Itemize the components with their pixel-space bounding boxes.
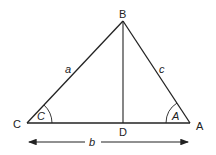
- vertex-label-d: D: [119, 126, 127, 138]
- triangle-diagram: B C A D a c b C A: [0, 0, 216, 155]
- side-label-c: c: [159, 63, 165, 75]
- side-label-b: b: [89, 136, 95, 148]
- angle-arc-c: [44, 105, 52, 123]
- vertex-label-b: B: [119, 8, 126, 20]
- side-c: [123, 21, 190, 123]
- vertex-label-c: C: [13, 118, 21, 130]
- angle-label-a: A: [171, 110, 179, 122]
- vertex-label-a: A: [196, 120, 204, 132]
- side-label-a: a: [65, 63, 71, 75]
- side-a: [27, 21, 123, 123]
- angle-label-c: C: [37, 110, 45, 122]
